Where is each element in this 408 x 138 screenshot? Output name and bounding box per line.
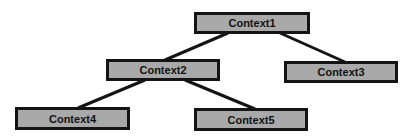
node-context3: Context3 (284, 61, 398, 83)
node-label: Context1 (228, 17, 275, 29)
edge-context1-context3 (280, 33, 345, 62)
edge-context2-context5 (185, 80, 255, 109)
node-label: Context3 (317, 66, 364, 78)
node-context5: Context5 (194, 108, 308, 131)
node-context2: Context2 (106, 59, 220, 81)
node-label: Context2 (139, 64, 186, 76)
node-label: Context4 (49, 113, 96, 125)
node-context1: Context1 (194, 12, 310, 34)
node-label: Context5 (227, 114, 274, 126)
edge-context1-context2 (165, 33, 228, 60)
node-context4: Context4 (15, 107, 130, 130)
edge-context2-context4 (78, 80, 145, 108)
